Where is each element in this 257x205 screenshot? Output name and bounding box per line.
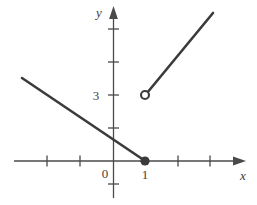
origin-label: 0	[102, 166, 109, 181]
x-tick-label-1: 1	[142, 167, 149, 182]
x-axis-label: x	[239, 168, 246, 183]
y-tick-label-3: 3	[93, 88, 100, 103]
y-axis-label: y	[94, 5, 102, 20]
figure-background	[0, 0, 257, 205]
open-point-1-2	[141, 91, 149, 99]
graph-figure: y x 0 1 3	[0, 0, 257, 205]
closed-point-1-0	[140, 156, 149, 165]
